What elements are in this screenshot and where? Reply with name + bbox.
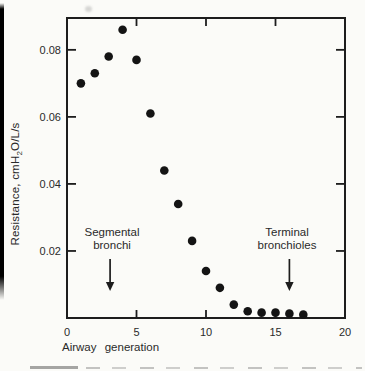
- data-point: [271, 308, 280, 317]
- figure-panel: 051015200.020.040.060.08 Resistance, cmH…: [0, 0, 365, 371]
- data-point: [146, 109, 155, 118]
- data-point: [188, 237, 197, 246]
- data-point: [104, 52, 113, 61]
- y-axis-label-text: Resistance, cmH: [9, 156, 21, 246]
- annotation-line: bronchi: [62, 239, 162, 252]
- data-point: [230, 300, 239, 309]
- data-point: [160, 166, 169, 175]
- data-point: [174, 200, 183, 209]
- data-point: [202, 267, 211, 276]
- terminal-bronchioles-arrow-head: [285, 282, 293, 291]
- data-point: [257, 308, 266, 317]
- cropped-caption-line: [0, 363, 365, 371]
- annotation-line: bronchioles: [237, 239, 337, 252]
- data-point: [285, 309, 294, 318]
- x-tick-label: 0: [64, 326, 70, 338]
- annotation-line: Segmental: [62, 226, 162, 239]
- data-point: [132, 56, 141, 65]
- y-axis-label-subscript: 2: [15, 151, 24, 156]
- segmental-bronchi-arrow-head: [106, 282, 114, 291]
- segmental-bronchi-annotation: Segmental bronchi: [62, 226, 162, 252]
- y-tick-label: 0.04: [40, 178, 61, 190]
- x-tick-label: 15: [269, 326, 281, 338]
- terminal-bronchioles-annotation: Terminal bronchioles: [237, 226, 337, 252]
- y-tick-label: 0.06: [40, 111, 61, 123]
- data-point: [243, 307, 252, 316]
- caption-fragment: [30, 366, 78, 369]
- y-tick-label: 0.08: [40, 44, 61, 56]
- y-axis-label: Resistance, cmH2O/L/s: [9, 34, 25, 334]
- data-point: [77, 79, 86, 88]
- data-point: [299, 310, 308, 319]
- x-tick-label: 20: [339, 326, 351, 338]
- x-axis-label: Airway generation: [62, 341, 159, 353]
- y-axis-label-units: O/L/s: [9, 122, 21, 150]
- data-point: [91, 69, 100, 78]
- data-point: [118, 25, 127, 34]
- caption-fragment: [86, 367, 362, 369]
- y-tick-label: 0.02: [40, 245, 61, 257]
- data-point: [216, 284, 225, 293]
- resistance-vs-generation-chart: 051015200.020.040.060.08: [0, 0, 365, 371]
- x-tick-label: 10: [200, 326, 212, 338]
- annotation-line: Terminal: [237, 226, 337, 239]
- x-tick-label: 5: [133, 326, 139, 338]
